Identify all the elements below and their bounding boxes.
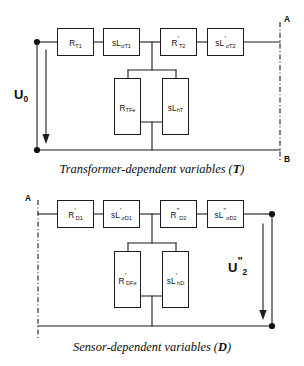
- component-inductor-slht: sLhT: [162, 78, 189, 135]
- node-dot-top-left: [34, 39, 40, 45]
- component-label: sL'hD: [167, 274, 184, 286]
- component-label: RTFe: [120, 101, 136, 113]
- terminal-label-a: A: [25, 194, 31, 202]
- component-inductor-slst1: sLσT1: [103, 28, 140, 56]
- transformer-wiring: [0, 0, 304, 186]
- component-inductor-slsd1: sL'σD1: [103, 200, 140, 228]
- output-voltage-label-u2: U"2: [228, 258, 247, 274]
- sensor-wiring: [0, 186, 304, 366]
- source-voltage-label-u0: U0: [14, 85, 28, 101]
- component-label: R"D2: [171, 208, 187, 220]
- terminal-label-a: A: [284, 15, 290, 23]
- component-label: sLhT: [168, 101, 183, 113]
- caption-text: Sensor-dependent variables (: [73, 340, 218, 354]
- component-resistor-rt1: RT1: [57, 28, 94, 56]
- component-resistor-rd1: R'D1: [57, 200, 94, 228]
- component-label: R'DFe: [118, 274, 136, 286]
- component-resistor-rd2: R"D2: [160, 200, 197, 228]
- voltage-arrow-u0: [42, 134, 49, 144]
- component-label: sL"σD2: [214, 208, 236, 220]
- node-dot-bottom-right: [269, 323, 275, 329]
- node-dot-bottom-left: [34, 147, 40, 153]
- component-inductor-slst2: sL'σT2: [207, 28, 244, 56]
- component-label: sLσT1: [112, 36, 131, 48]
- component-resistor-rtfe: RTFe: [114, 78, 141, 135]
- component-inductor-slhd: sL'hD: [162, 251, 189, 308]
- component-resistor-rdfe: R'DFe: [114, 251, 141, 308]
- caption-text: Transformer-dependent variables (: [60, 162, 233, 176]
- component-resistor-rt2: R'T2: [160, 28, 197, 56]
- component-inductor-slsd2: sL"σD2: [207, 200, 244, 228]
- caption-suffix: ): [227, 340, 231, 354]
- component-label: R'T2: [172, 36, 186, 48]
- caption-transformer: Transformer-dependent variables (T): [0, 163, 304, 175]
- component-label: R'D1: [68, 208, 83, 220]
- voltage-arrow-u2: [259, 310, 266, 320]
- caption-symbol: D: [218, 340, 227, 354]
- node-dot-top-right: [269, 211, 275, 217]
- caption-sensor: Sensor-dependent variables (D): [0, 341, 304, 353]
- sensor-circuit: R'D1 sL'σD1 R"D2 sL"σD2 R'DFe sL'hD U"2 …: [0, 186, 304, 366]
- caption-suffix: ): [240, 162, 244, 176]
- component-label: sL'σT2: [215, 36, 235, 48]
- component-label: sL'σD1: [111, 208, 132, 220]
- transformer-circuit: RT1 sLσT1 R'T2 sL'σT2 RTFe sLhT U0 A B T…: [0, 0, 304, 186]
- component-label: RT1: [69, 36, 82, 48]
